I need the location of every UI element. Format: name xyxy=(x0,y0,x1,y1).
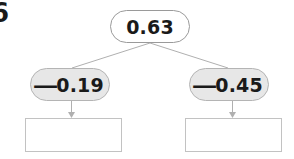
connector-root-to-left xyxy=(72,43,150,68)
answer-box-right[interactable] xyxy=(185,118,282,152)
node-root-value: 0.63 xyxy=(110,10,190,43)
operand-right-number: 0.45 xyxy=(215,74,263,96)
node-operand-left: —0.19 xyxy=(30,68,110,101)
worksheet-canvas: 6 0.63 —0.19 —0.45 xyxy=(0,0,294,159)
operand-left-number: 0.19 xyxy=(56,74,104,96)
minus-sign-right-icon: — xyxy=(192,74,218,96)
connector-root-to-right xyxy=(150,43,228,68)
node-operand-right: —0.45 xyxy=(189,68,269,101)
root-value-text: 0.63 xyxy=(126,16,174,38)
answer-box-left[interactable] xyxy=(25,118,122,152)
minus-sign-left-icon: — xyxy=(33,74,59,96)
question-number: 6 xyxy=(0,0,17,28)
